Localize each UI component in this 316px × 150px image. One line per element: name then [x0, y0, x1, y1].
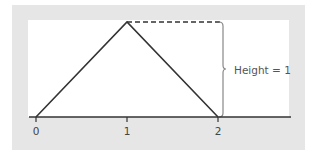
tick-label-2: 2	[215, 125, 222, 137]
tick-label-1: 1	[124, 125, 131, 137]
height-annotation: Height = 1	[234, 64, 291, 76]
tick-label-0: 0	[33, 125, 40, 137]
triangle-diagram: 0 1 2 Height = 1	[0, 0, 316, 150]
